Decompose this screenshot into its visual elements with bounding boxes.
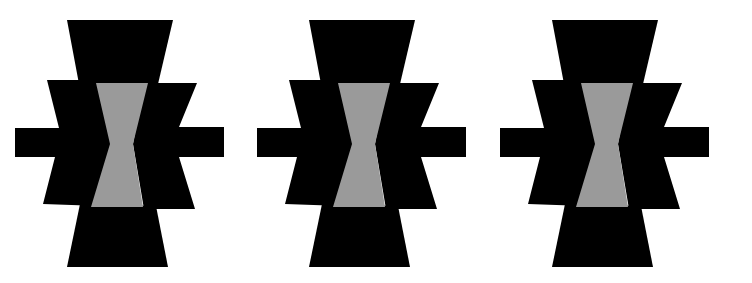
bottom-trapezoid-shape [309, 204, 410, 267]
top-trapezoid-shape [67, 20, 173, 84]
top-trapezoid-shape [309, 20, 415, 84]
figures-svg [0, 0, 752, 283]
figure-1 [15, 20, 224, 267]
figure-canvas [0, 0, 752, 283]
figure-3 [500, 20, 709, 267]
top-trapezoid-shape [552, 20, 658, 84]
bottom-trapezoid-shape [552, 204, 653, 267]
figure-2 [257, 20, 466, 267]
bottom-trapezoid-shape [67, 204, 168, 267]
